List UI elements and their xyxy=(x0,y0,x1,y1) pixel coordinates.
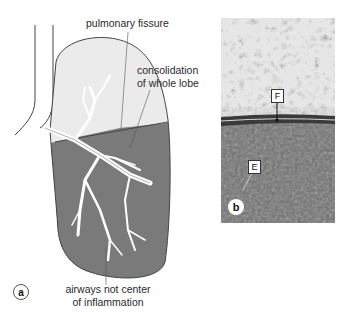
label-airways-line1: airways not center xyxy=(58,283,158,296)
panel-a-lung-diagram: pulmonary fissure consolidation of whole… xyxy=(0,0,220,313)
lung-schematic xyxy=(0,0,220,313)
label-consolidation-line2: of whole lobe xyxy=(137,77,199,90)
label-consolidation-line1: consolidation xyxy=(137,64,198,77)
panel-marker-a: a xyxy=(13,284,29,300)
label-pulmonary-fissure: pulmonary fissure xyxy=(86,17,169,30)
panel-marker-b: b xyxy=(228,199,244,215)
label-f-fissure: F xyxy=(271,89,284,103)
micrograph-image xyxy=(221,18,335,223)
trachea xyxy=(15,25,53,135)
panel-b-micrograph: F E b xyxy=(221,18,335,223)
label-e-exudate: E xyxy=(248,160,261,174)
label-airways-line2: of inflammation xyxy=(58,296,158,309)
